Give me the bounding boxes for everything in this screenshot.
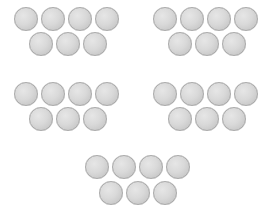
coin-icon (222, 107, 246, 131)
coin-icon (153, 181, 177, 205)
coin-icon (139, 155, 163, 179)
coin-row-bottom (168, 107, 246, 131)
coin-icon (14, 82, 38, 106)
coin-icon (29, 32, 53, 56)
coin-group-middle-right (153, 82, 263, 132)
coin-icon (234, 7, 258, 31)
coin-icon (41, 7, 65, 31)
coin-icon (95, 82, 119, 106)
coin-row-top (14, 7, 119, 31)
coin-icon (207, 82, 231, 106)
coin-row-top (14, 82, 119, 106)
coin-icon (85, 155, 109, 179)
coin-icon (68, 7, 92, 31)
coin-icon (126, 181, 150, 205)
coin-group-top-left (14, 7, 124, 57)
coin-icon (14, 7, 38, 31)
coin-group-middle-left (14, 82, 124, 132)
coin-icon (222, 32, 246, 56)
coin-row-top (153, 7, 258, 31)
coin-icon (195, 32, 219, 56)
coin-row-bottom (29, 107, 107, 131)
coin-icon (153, 82, 177, 106)
coin-icon (95, 7, 119, 31)
coin-icon (68, 82, 92, 106)
coin-icon (153, 7, 177, 31)
coin-row-bottom (99, 181, 177, 205)
coin-icon (234, 82, 258, 106)
coin-group-bottom-center (85, 155, 195, 205)
coin-row-bottom (29, 32, 107, 56)
coin-row-top (153, 82, 258, 106)
coin-icon (56, 107, 80, 131)
coin-icon (112, 155, 136, 179)
coin-icon (29, 107, 53, 131)
coin-icon (195, 107, 219, 131)
coin-icon (180, 7, 204, 31)
coin-icon (207, 7, 231, 31)
coin-icon (168, 107, 192, 131)
coin-group-top-right (153, 7, 263, 57)
coin-icon (83, 32, 107, 56)
coin-icon (99, 181, 123, 205)
coin-icon (41, 82, 65, 106)
coin-icon (168, 32, 192, 56)
coin-row-top (85, 155, 190, 179)
coin-icon (166, 155, 190, 179)
coin-icon (180, 82, 204, 106)
coin-row-bottom (168, 32, 246, 56)
coin-icon (83, 107, 107, 131)
coin-icon (56, 32, 80, 56)
